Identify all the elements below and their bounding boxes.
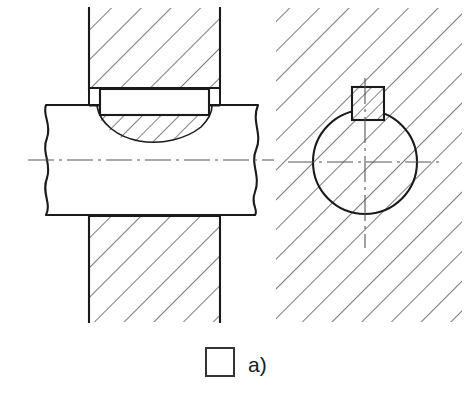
technical-drawing-figure: a) [0, 0, 466, 399]
view-cross-section [276, 8, 462, 322]
hub-upper [89, 8, 220, 89]
figure-caption: a) [248, 353, 267, 376]
hub-lower-hatch [89, 215, 220, 322]
key-outline [100, 89, 209, 115]
key-cross-section [352, 87, 384, 120]
hub-lower [89, 215, 220, 322]
square-swatch [206, 348, 234, 376]
figure-svg: a) [0, 0, 466, 399]
hub-upper-hatch [89, 8, 220, 89]
key-square-hatch [352, 87, 384, 120]
key-longitudinal [100, 89, 209, 115]
